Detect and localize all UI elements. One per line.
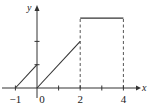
x-tick-label: −1 xyxy=(10,93,22,105)
x-axis-label: x xyxy=(141,82,147,93)
x-tick-label: 0 xyxy=(39,93,45,105)
x-tick-label: 4 xyxy=(121,93,127,105)
x-axis-arrowhead-icon xyxy=(136,86,141,91)
dashed-guides xyxy=(80,18,123,88)
x-tick-label: 2 xyxy=(77,93,83,105)
y-axis-label: y xyxy=(26,2,32,13)
ticks: −1024 xyxy=(10,41,127,105)
function-graph: x y −1024 xyxy=(0,0,152,107)
segment-1 xyxy=(15,65,37,88)
y-axis-arrowhead-icon xyxy=(35,5,40,11)
segment-2 xyxy=(37,41,80,88)
series xyxy=(15,18,123,88)
axes: x y xyxy=(2,2,147,98)
